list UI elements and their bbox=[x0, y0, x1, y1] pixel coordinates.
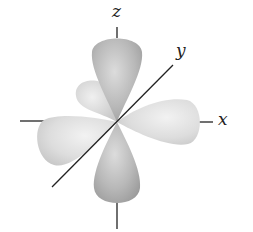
orbital-diagram: z y x bbox=[0, 0, 253, 232]
x-axis-label: x bbox=[218, 111, 228, 128]
y-axis-label: y bbox=[176, 42, 186, 59]
lobe-pos-x bbox=[117, 99, 200, 144]
z-axis-label: z bbox=[112, 3, 121, 20]
orbital-svg bbox=[0, 0, 253, 232]
